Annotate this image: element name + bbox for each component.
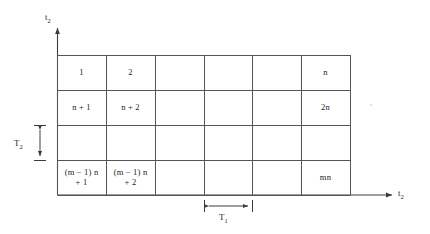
grid-cell: mn	[301, 160, 350, 195]
vertical-axis-label: t2	[45, 12, 51, 24]
grid-cell: (m − 1) n + 2	[106, 160, 155, 195]
grid-cell	[106, 125, 155, 160]
vertical-axis-label-sub: 2	[47, 17, 50, 24]
grid-cell: n + 2	[106, 90, 155, 125]
grid-cell: (m − 1) n + 1	[57, 160, 106, 195]
horizontal-axis-label-sub: 2	[400, 193, 403, 200]
grid-cell	[252, 125, 301, 160]
grid-cell	[155, 160, 204, 195]
grid-cell: n	[301, 55, 350, 90]
grid-cell	[204, 55, 252, 90]
scan-artifact	[370, 104, 372, 106]
t2-dimension-label: T2	[14, 138, 23, 150]
grid-cell: 2	[106, 55, 155, 90]
grid-cell	[204, 160, 252, 195]
grid-cell: 2n	[301, 90, 350, 125]
t2-dimension-arrow	[34, 126, 46, 161]
grid-cell	[204, 125, 252, 160]
figure-canvas: t2 t2 T2 T1 1 2 n n + 1 n + 2 2n (m − 1)…	[0, 0, 430, 234]
grid-cell	[252, 160, 301, 195]
grid-cell	[301, 125, 350, 160]
horizontal-axis-label: t2	[398, 188, 404, 200]
grid-cell	[204, 90, 252, 125]
grid-cell	[252, 55, 301, 90]
t2-label-sub: 2	[20, 143, 23, 150]
grid-cell	[252, 90, 301, 125]
t1-label-sub: 1	[225, 217, 228, 224]
grid-cell	[155, 55, 204, 90]
grid-cell	[155, 125, 204, 160]
t1-dimension-arrow	[205, 200, 253, 212]
grid-cell: n + 1	[57, 90, 106, 125]
grid-cell	[57, 125, 106, 160]
grid-cell: 1	[57, 55, 106, 90]
t1-dimension-label: T1	[219, 212, 228, 224]
grid-cell	[155, 90, 204, 125]
